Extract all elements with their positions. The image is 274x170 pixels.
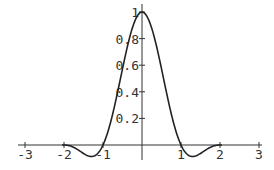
x-tick-label: -3 [17, 147, 33, 162]
y-tick-label: 1 [131, 5, 139, 20]
x-tick-label: -2 [56, 147, 72, 162]
axes [18, 4, 262, 160]
y-tick-label: 0.2 [116, 111, 139, 126]
x-tick-label: 2 [216, 147, 224, 162]
x-tick-label: 3 [255, 147, 263, 162]
chart-container: -3-2-11230.20.40.60.81 [0, 0, 274, 170]
ticks: -3-2-11230.20.40.60.81 [17, 5, 263, 162]
chart-svg: -3-2-11230.20.40.60.81 [0, 0, 274, 170]
y-tick-label: 0.6 [116, 58, 139, 73]
